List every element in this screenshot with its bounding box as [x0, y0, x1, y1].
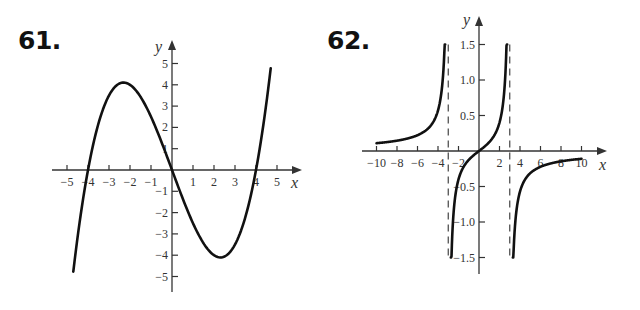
x-tick-label: 2 — [497, 156, 503, 170]
x-axis-label: x — [598, 156, 606, 173]
curve-1 — [377, 45, 446, 144]
y-tick-label: −1.0 — [453, 215, 475, 229]
x-tick-label: −10 — [367, 156, 386, 170]
y-tick-label: 1.0 — [460, 73, 475, 87]
x-tick-label: −4 — [432, 156, 445, 170]
y-tick-label: −1.5 — [453, 251, 475, 265]
x-axis-arrow-icon — [597, 147, 607, 155]
curve-3 — [513, 159, 582, 258]
y-tick-label: 0.5 — [460, 109, 475, 123]
x-tick-label: −8 — [391, 156, 404, 170]
x-tick-label: −6 — [411, 156, 424, 170]
chart-62: −10−8−6−4−22468101.51.00.5−0.5−1.0−1.5xy — [0, 0, 640, 310]
y-tick-label: 1.5 — [460, 38, 475, 52]
y-axis-arrow-icon — [475, 16, 483, 26]
y-axis-label: y — [461, 11, 471, 29]
x-tick-label: 4 — [517, 156, 523, 170]
